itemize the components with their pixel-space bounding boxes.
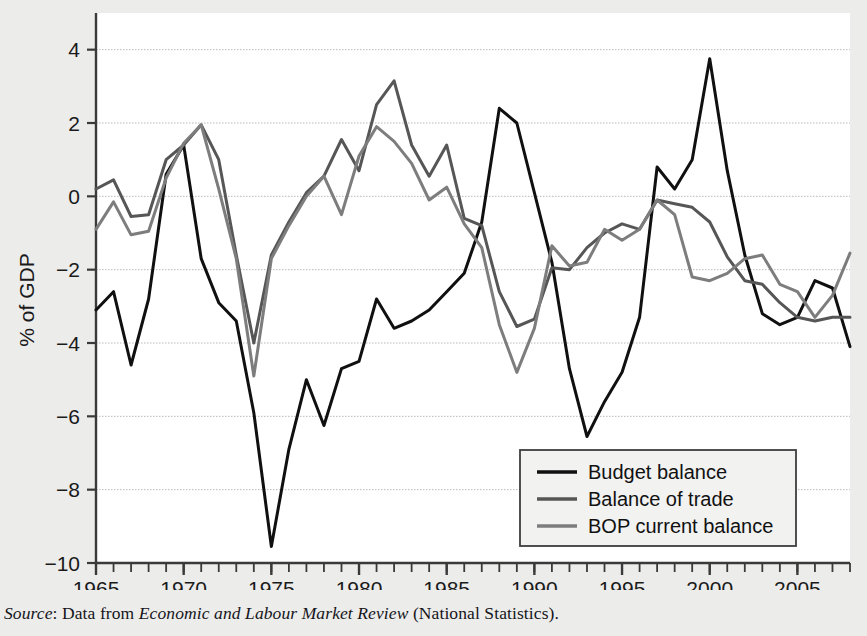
line-chart: 420−2−4−6−8−10 1965197019751980198519901… (0, 0, 867, 590)
x-tick-label: 1990 (511, 577, 558, 590)
chart-figure: 420−2−4−6−8−10 1965197019751980198519901… (0, 0, 867, 636)
x-tick-label: 2005 (774, 577, 821, 590)
source-caption: Source: Data from Economic and Labour Ma… (4, 603, 559, 624)
x-tick-label: 1965 (73, 577, 120, 590)
source-lead-text: Data from (62, 603, 139, 623)
y-tick-label: −2 (56, 258, 80, 281)
x-tick-label: 1985 (423, 577, 470, 590)
source-publication-title: Economic and Labour Market Review (139, 603, 409, 623)
x-tick-label: 1995 (599, 577, 646, 590)
legend-label: Budget balance (588, 461, 727, 483)
x-tick-label: 1975 (248, 577, 295, 590)
y-tick-label: 0 (68, 185, 80, 208)
x-tick-label: 1980 (336, 577, 383, 590)
y-tick-label: −8 (56, 478, 80, 501)
legend-label: BOP current balance (588, 515, 773, 537)
y-tick-label: 4 (68, 38, 80, 61)
source-separator: : (53, 603, 62, 623)
y-tick-label: −4 (56, 332, 80, 355)
chart-legend: Budget balanceBalance of tradeBOP curren… (520, 450, 796, 546)
x-tick-label: 1970 (160, 577, 207, 590)
source-label: Source (4, 603, 53, 623)
y-tick-label: −6 (56, 405, 80, 428)
source-trail-text: (National Statistics). (408, 603, 559, 623)
y-tick-label: −10 (44, 552, 80, 575)
y-axis-title: % of GDP (15, 253, 38, 346)
x-axis-tick-labels: 196519701975198019851990199520002005 (73, 577, 821, 590)
y-tick-label: 2 (68, 112, 80, 135)
x-tick-label: 2000 (686, 577, 733, 590)
legend-label: Balance of trade (588, 488, 734, 510)
